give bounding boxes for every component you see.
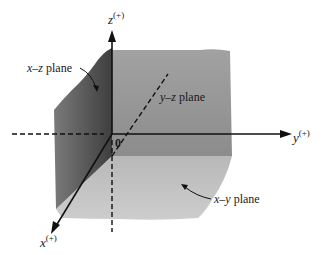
xz-plane-label: x–z plane [26, 61, 72, 75]
y-axis-label: y(+) [291, 128, 310, 145]
z-axis-label: z(+) [107, 10, 124, 27]
x-axis-label: x(+) [39, 233, 57, 250]
xy-plane-label: x–y plane [213, 192, 260, 206]
coordinate-diagram: z(+) y(+) x(+) 0 x–z plane y–z plane x–y… [0, 0, 327, 255]
y-axis-arrowhead-icon [280, 130, 292, 138]
origin-label: 0 [115, 136, 121, 150]
z-axis-arrowhead-icon [108, 30, 116, 42]
yz-plane-label: y–z plane [159, 90, 205, 104]
